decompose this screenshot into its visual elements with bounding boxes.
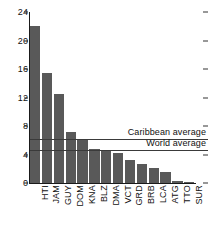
reference-line	[30, 150, 208, 151]
y-tick-mark-right	[203, 97, 208, 98]
bar	[89, 149, 99, 183]
x-axis-label: SUR	[194, 185, 204, 205]
x-axis-labels: HTIJAMGUYDOMKNABLZDMAVCTGRDBRBLCAATGTTOS…	[30, 185, 196, 225]
x-axis-label: BLZ	[99, 185, 109, 202]
y-tick-mark-right	[203, 154, 208, 155]
y-tick-mark-right	[203, 183, 208, 184]
reference-line-label: Caribbean average	[128, 127, 206, 137]
bar-chart: 04812162024 Caribbean averageWorld avera…	[0, 0, 214, 225]
x-axis-label: DOM	[75, 185, 85, 207]
y-tick-mark	[24, 154, 28, 155]
x-axis-label: TTO	[182, 185, 192, 203]
bar	[184, 182, 194, 183]
y-tick-mark-right	[203, 69, 208, 70]
x-axis-label: GUY	[63, 185, 73, 205]
x-axis-label: KNA	[87, 185, 97, 204]
y-tick-mark	[24, 12, 28, 13]
bar	[125, 160, 135, 184]
y-tick-mark	[24, 97, 28, 98]
y-tick-mark	[24, 183, 28, 184]
bar	[101, 151, 111, 183]
bar	[149, 168, 159, 183]
x-axis-label: LCA	[158, 185, 168, 203]
x-axis-label: GRD	[134, 185, 144, 206]
bar	[42, 73, 52, 183]
bar	[77, 139, 87, 183]
bar	[137, 164, 147, 183]
bar	[172, 181, 182, 183]
x-axis-line	[29, 183, 196, 184]
y-tick-mark-right	[203, 12, 208, 13]
y-tick-mark	[24, 40, 28, 41]
bar-series	[30, 12, 196, 183]
x-axis-label: BRB	[146, 185, 156, 204]
bar	[30, 26, 40, 183]
reference-line-label: World average	[146, 138, 206, 148]
y-tick-mark	[24, 69, 28, 70]
x-axis-label: ATG	[170, 185, 180, 203]
x-axis-label: DMA	[111, 185, 121, 206]
bar	[113, 153, 123, 183]
plot-area	[30, 12, 196, 183]
bar	[160, 172, 170, 183]
y-tick-mark	[24, 126, 28, 127]
x-axis-label: VCT	[123, 185, 133, 204]
x-axis-label: JAM	[51, 185, 61, 204]
x-axis-label: HTI	[40, 185, 50, 200]
y-tick-mark-right	[203, 40, 208, 41]
